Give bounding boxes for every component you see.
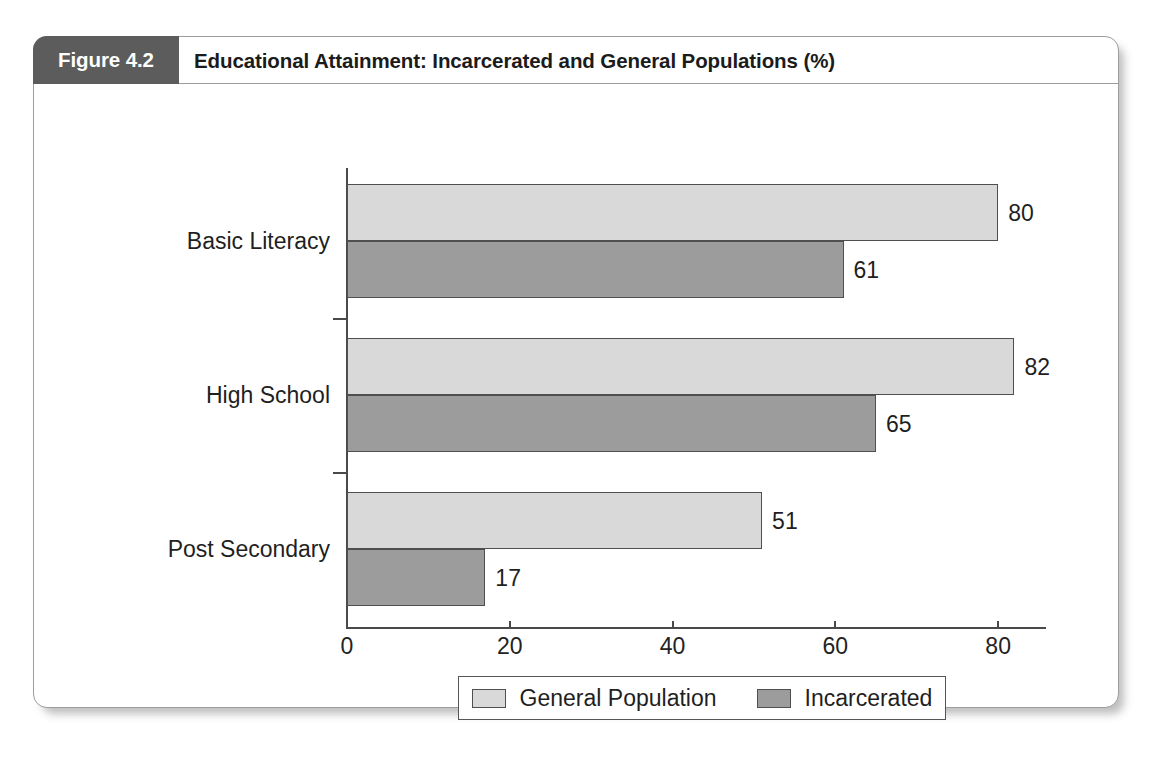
x-axis-tick-label: 20 xyxy=(497,633,523,660)
x-axis-tick-label: 0 xyxy=(341,633,354,660)
x-axis-line xyxy=(346,627,1046,629)
x-axis-tick xyxy=(509,621,511,629)
legend-item-general-population: General Population xyxy=(472,685,717,712)
figure-screenshot: Figure 4.2 Educational Attainment: Incar… xyxy=(0,0,1155,764)
bar-incarcerated xyxy=(347,395,876,452)
x-axis-tick-label: 40 xyxy=(660,633,686,660)
category-label: Post Secondary xyxy=(40,536,330,563)
bar-value-label: 82 xyxy=(1024,353,1050,380)
legend-swatch-general-population xyxy=(472,689,506,708)
category-label: High School xyxy=(40,382,330,409)
x-axis-tick xyxy=(834,621,836,629)
figure-card: Figure 4.2 Educational Attainment: Incar… xyxy=(33,36,1119,708)
legend-item-incarcerated: Incarcerated xyxy=(757,685,933,712)
x-axis-tick-label: 60 xyxy=(823,633,849,660)
bar-value-label: 17 xyxy=(495,564,521,591)
figure-title: Educational Attainment: Incarcerated and… xyxy=(194,37,835,84)
bar-incarcerated xyxy=(347,241,844,298)
bar-value-label: 80 xyxy=(1008,199,1034,226)
legend-label-incarcerated: Incarcerated xyxy=(805,685,933,712)
category-label: Basic Literacy xyxy=(40,228,330,255)
bar-value-label: 51 xyxy=(772,507,798,534)
bar-incarcerated xyxy=(347,549,485,606)
x-axis-tick-label: 80 xyxy=(985,633,1011,660)
bar-general-population xyxy=(347,338,1014,395)
y-axis-tick xyxy=(333,472,346,474)
figure-number-tag: Figure 4.2 xyxy=(33,36,179,84)
x-axis-tick xyxy=(997,621,999,629)
legend-label-general-population: General Population xyxy=(520,685,717,712)
bar-general-population xyxy=(347,492,762,549)
chart-legend: General Population Incarcerated xyxy=(458,676,946,720)
figure-header: Figure 4.2 Educational Attainment: Incar… xyxy=(34,37,1118,84)
y-axis-tick xyxy=(333,318,346,320)
chart-plot-area: 020406080 Basic LiteracyHigh SchoolPost … xyxy=(34,84,1118,707)
bar-value-label: 61 xyxy=(854,256,880,283)
x-axis-tick xyxy=(672,621,674,629)
bar-general-population xyxy=(347,184,998,241)
x-axis-tick xyxy=(346,621,348,629)
legend-swatch-incarcerated xyxy=(757,689,791,708)
bar-value-label: 65 xyxy=(886,410,912,437)
